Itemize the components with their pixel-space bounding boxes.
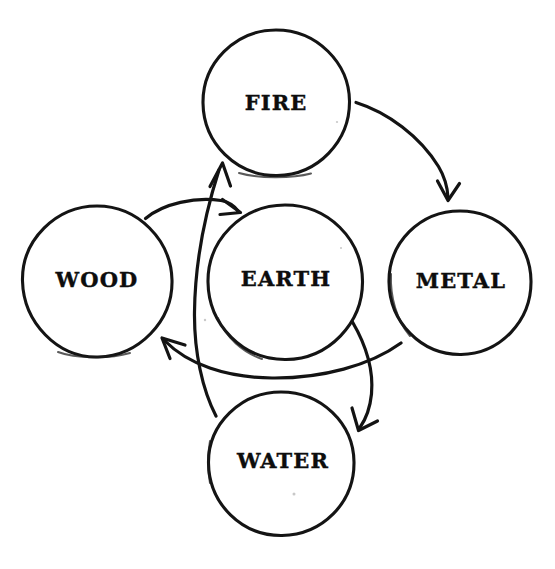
node-water-label: WATER [236,448,329,473]
paper-speck [293,493,296,496]
edge-earth-to-water [352,322,378,431]
node-wood[interactable]: WOOD [22,206,172,357]
node-earth-label: EARTH [241,266,331,291]
node-metal-label: METAL [416,268,506,293]
edge-wood-to-earth [146,199,241,218]
node-fire-label: FIRE [245,90,308,115]
five-elements-diagram: FIRE WOOD EARTH METAL WATER [0,0,555,569]
diagram-canvas: FIRE WOOD EARTH METAL WATER [0,0,555,569]
edge-water-to-fire-arrowhead [210,163,231,187]
edge-wood-to-earth-arrowhead [220,200,241,215]
node-fire[interactable]: FIRE [203,30,350,177]
node-wood-label: WOOD [55,267,139,292]
paper-speck [336,121,338,123]
node-earth[interactable]: EARTH [208,205,363,360]
edge-fire-to-metal [356,103,460,201]
edge-fire-to-metal-line [356,103,448,198]
paper-speck [340,247,342,249]
node-water[interactable]: WATER [208,392,354,536]
edge-earth-to-water-line [353,322,372,428]
paper-speck [204,319,206,321]
node-metal[interactable]: METAL [389,211,531,355]
